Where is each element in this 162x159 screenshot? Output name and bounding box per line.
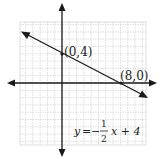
y-axis — [59, 3, 66, 157]
svg-text:−: − — [91, 125, 100, 138]
y-axis-up-arrow-icon — [59, 3, 66, 11]
x-axis-left-arrow-icon — [7, 80, 15, 87]
equation-label: y = − 1 2 x + 4 — [73, 119, 140, 144]
coordinate-plane: (0,4) (8,0) y = − 1 2 x + 4 — [0, 0, 162, 159]
line-arrow-lower-right-icon — [139, 91, 149, 99]
point-label-8-0: (8,0) — [120, 69, 148, 83]
svg-text:2: 2 — [101, 134, 107, 144]
svg-text:y: y — [73, 125, 81, 138]
x-axis-right-arrow-icon — [149, 80, 157, 87]
y-axis-down-arrow-icon — [59, 149, 66, 157]
point-label-0-4: (0,4) — [64, 45, 92, 59]
svg-text:1: 1 — [101, 119, 107, 129]
svg-text:x + 4: x + 4 — [111, 125, 140, 138]
svg-text:=: = — [82, 125, 91, 138]
